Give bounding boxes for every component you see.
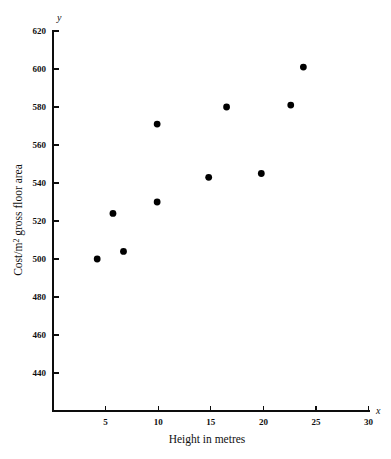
- data-point: [154, 121, 161, 128]
- y-tick-label: 500: [33, 254, 47, 264]
- x-axis-title: Height in metres: [169, 433, 246, 446]
- data-point: [258, 170, 265, 177]
- data-point: [300, 64, 307, 71]
- y-axis-title: Cost/m2 gross floor area: [12, 164, 26, 276]
- y-tick-label: 480: [33, 292, 47, 302]
- data-points-group: [94, 64, 307, 263]
- y-axis-title-suffix: gross floor area: [12, 164, 25, 238]
- x-tick-label: 5: [103, 417, 108, 427]
- data-point: [94, 256, 101, 263]
- y-tick-label: 600: [33, 64, 47, 74]
- ticks-group: 5101520253044046048050052054056058060062…: [33, 26, 374, 427]
- data-point: [287, 102, 294, 109]
- data-point: [223, 104, 230, 111]
- scatter-plot-figure: 5101520253044046048050052054056058060062…: [0, 0, 391, 459]
- y-tick-label: 440: [33, 368, 47, 378]
- y-tick-label: 620: [33, 26, 47, 36]
- data-point: [120, 248, 127, 255]
- y-axis-title-prefix: Cost/m: [12, 243, 24, 276]
- y-tick-label: 520: [33, 216, 47, 226]
- data-point: [154, 199, 161, 206]
- y-tick-label: 580: [33, 102, 47, 112]
- y-tick-label: 560: [33, 140, 47, 150]
- y-tick-label: 460: [33, 330, 47, 340]
- x-tick-label: 30: [364, 417, 374, 427]
- data-point: [110, 210, 117, 217]
- plot-canvas: 5101520253044046048050052054056058060062…: [0, 0, 391, 459]
- x-tick-label: 20: [259, 417, 269, 427]
- x-tick-label: 15: [206, 417, 216, 427]
- y-axis-variable-name: y: [56, 12, 62, 23]
- data-point: [205, 174, 212, 181]
- x-tick-label: 10: [154, 417, 164, 427]
- x-tick-label: 25: [312, 417, 322, 427]
- axes-group: [52, 30, 370, 411]
- x-axis-variable-name: x: [375, 405, 381, 416]
- y-tick-label: 540: [33, 178, 47, 188]
